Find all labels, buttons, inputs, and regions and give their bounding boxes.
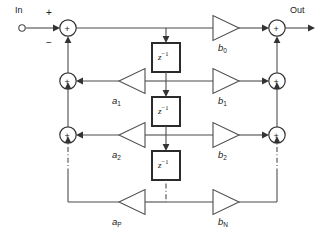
input-plus-sign: + xyxy=(46,8,52,18)
gain-a2-label: a2 xyxy=(112,150,121,160)
gain-b1-label: b1 xyxy=(218,96,227,106)
gain-a2-triangle xyxy=(119,123,145,148)
feedback-summer-1-plus: + xyxy=(65,77,70,87)
gain-aP-triangle xyxy=(119,190,145,215)
gain-a1-label: a1 xyxy=(112,96,121,106)
input-minus-sign: − xyxy=(46,38,52,48)
arrowhead-into-input-summer xyxy=(53,25,60,32)
arrowhead-into-feedback-summer-2 xyxy=(76,132,83,139)
output-label: Out xyxy=(290,6,305,15)
arrowhead-into-feedforward-summer-2 xyxy=(262,132,269,139)
feedback-summer-2-plus: + xyxy=(65,131,70,141)
arrowhead-into-output-summer-bottom xyxy=(274,36,281,43)
arrowhead-into-delay-2 xyxy=(163,90,170,97)
delay-3-base: z xyxy=(158,160,162,170)
gain-aP-sub: P xyxy=(117,221,121,228)
gain-aP-label: aP xyxy=(112,217,122,227)
feedforward-summer-2-plus: + xyxy=(274,131,279,141)
gain-b2-triangle xyxy=(213,123,239,148)
diagram-canvas xyxy=(0,0,323,233)
delay-1-base: z xyxy=(158,52,162,62)
arrowhead-into-feedforward-summer-1 xyxy=(262,78,269,85)
iir-filter-diagram: In Out + − + + + + + + z−1 z−1 z−1 a1 a2… xyxy=(0,0,323,233)
gain-b2-sub: 2 xyxy=(223,154,227,161)
input-summer-plus: + xyxy=(65,24,70,34)
gain-bN-triangle xyxy=(213,190,239,215)
delay-1-label: z−1 xyxy=(158,52,168,62)
delay-2-label: z−1 xyxy=(158,106,168,116)
input-label: In xyxy=(15,6,23,15)
arrowhead-into-feedback-summer-1 xyxy=(76,78,83,85)
delay-2-exponent: −1 xyxy=(162,104,169,111)
gain-b1-sub: 1 xyxy=(223,100,227,107)
gain-b2-label: b2 xyxy=(218,150,227,160)
gain-b0-label: b0 xyxy=(218,43,227,53)
gain-a1-triangle xyxy=(119,69,145,94)
gain-b1-triangle xyxy=(213,69,239,94)
output-summer-plus: + xyxy=(274,24,279,34)
gain-a1-sub: 1 xyxy=(117,100,121,107)
arrowhead-into-delay-1 xyxy=(163,36,170,43)
arrowhead-into-delay-3 xyxy=(163,144,170,151)
arrowhead-into-output-summer xyxy=(262,25,269,32)
input-terminal xyxy=(19,25,25,31)
delay-3-label: z−1 xyxy=(158,160,168,170)
arrowhead-output xyxy=(308,25,315,32)
gain-bN-sub: N xyxy=(223,221,228,228)
delay-3-exponent: −1 xyxy=(162,158,169,165)
feedforward-summer-1-plus: + xyxy=(274,77,279,87)
gain-a2-sub: 2 xyxy=(117,154,121,161)
delay-1-exponent: −1 xyxy=(162,50,169,57)
delay-2-base: z xyxy=(158,106,162,116)
gain-bN-label: bN xyxy=(218,217,228,227)
arrowhead-into-input-summer-bottom xyxy=(65,36,72,43)
gain-b0-sub: 0 xyxy=(223,47,227,54)
gain-b0-triangle xyxy=(213,16,239,41)
